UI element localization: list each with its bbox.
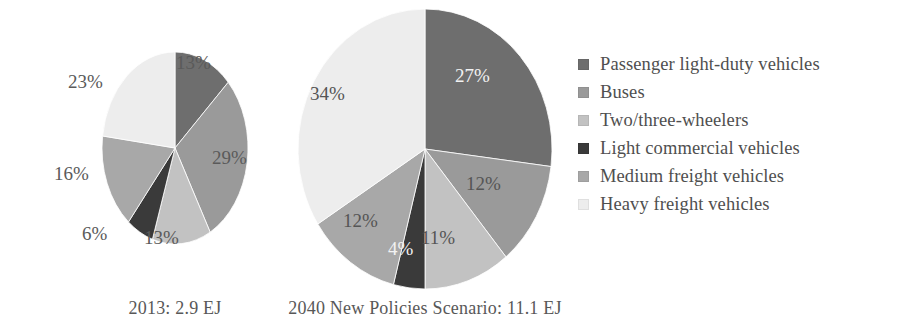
- legend-item-medium-freight-vehicles[interactable]: Medium freight vehicles: [578, 162, 908, 190]
- pie-chart-figure: 13% 29% 13% 6% 16% 23% 2013: 2.9 EJ 27% …: [0, 0, 914, 336]
- pie-slice[interactable]: [103, 52, 175, 148]
- legend-swatch-icon: [578, 59, 589, 70]
- pie-slice[interactable]: [425, 9, 552, 167]
- pie-2013-label-heavy-freight: 23%: [68, 72, 103, 91]
- pie-2040-caption: 2040 New Policies Scenario: 11.1 EJ: [270, 298, 580, 319]
- pie-chart-2013: 13% 29% 13% 6% 16% 23% 2013: 2.9 EJ: [60, 20, 290, 320]
- pie-2040-label-medium-freight: 12%: [343, 211, 378, 230]
- pie-2013-label-two-three-wheelers: 13%: [144, 228, 179, 247]
- legend-swatch-icon: [578, 115, 589, 126]
- legend-swatch-icon: [578, 87, 589, 98]
- pie-2040-label-two-three-wheelers: 11%: [421, 228, 455, 247]
- pie-2040-label-light-commercial: 4%: [388, 239, 413, 258]
- legend-item-light-commercial-vehicles[interactable]: Light commercial vehicles: [578, 134, 908, 162]
- pie-2040-label-passenger: 27%: [455, 66, 490, 85]
- legend-swatch-icon: [578, 171, 589, 182]
- legend-item-passenger-light-duty-vehicles[interactable]: Passenger light-duty vehicles: [578, 50, 908, 78]
- legend-item-buses[interactable]: Buses: [578, 78, 908, 106]
- pie-2013-label-light-commercial: 6%: [82, 224, 107, 243]
- pie-2013-label-medium-freight: 16%: [54, 164, 89, 183]
- legend-item-two-three-wheelers[interactable]: Two/three-wheelers: [578, 106, 908, 134]
- pie-2013-label-passenger: 13%: [176, 53, 211, 72]
- legend-swatch-icon: [578, 199, 589, 210]
- legend-swatch-icon: [578, 143, 589, 154]
- pie-2040-label-buses: 12%: [466, 174, 501, 193]
- legend-item-label: Two/three-wheelers: [600, 110, 748, 131]
- pie-2013-label-buses: 29%: [212, 148, 247, 167]
- legend-item-label: Heavy freight vehicles: [600, 194, 770, 215]
- pie-chart-2040: 27% 12% 11% 4% 12% 34% 2040 New Policies…: [270, 6, 580, 326]
- legend-item-label: Passenger light-duty vehicles: [600, 54, 820, 75]
- pie-2013-svg: [60, 20, 290, 290]
- legend-item-label: Light commercial vehicles: [600, 138, 800, 159]
- pie-2040-label-heavy-freight: 34%: [310, 84, 345, 103]
- pie-2013-caption: 2013: 2.9 EJ: [60, 298, 290, 319]
- legend: Passenger light-duty vehicles Buses Two/…: [578, 50, 908, 218]
- legend-item-heavy-freight-vehicles[interactable]: Heavy freight vehicles: [578, 190, 908, 218]
- pie-2040-svg: [270, 6, 580, 296]
- legend-item-label: Medium freight vehicles: [600, 166, 784, 187]
- legend-item-label: Buses: [600, 82, 645, 103]
